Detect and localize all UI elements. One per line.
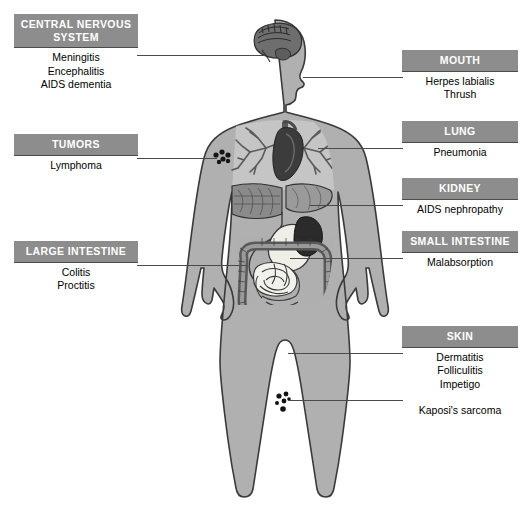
callout-lung-item-0: Pneumonia (402, 146, 518, 160)
callout-small-intestine-header: SMALL INTESTINE (402, 231, 518, 252)
callout-lung-header: LUNG (402, 121, 518, 142)
callout-tumors: TUMORS Lymphoma (14, 134, 138, 172)
callout-large-intestine-header: LARGE INTESTINE (14, 241, 138, 262)
callout-kidney-header: KIDNEY (402, 178, 518, 199)
callout-tumors-item-0: Lymphoma (14, 159, 138, 173)
leader-line-mouth (303, 77, 403, 78)
callout-skin: SKIN Dermatitis Folliculitis Impetigo (402, 326, 518, 391)
callout-mouth-item-1: Thrush (402, 88, 518, 102)
callout-cns: CENTRAL NERVOUS SYSTEM Meningitis Enceph… (14, 14, 138, 92)
callout-kidney: KIDNEY AIDS nephropathy (402, 178, 518, 216)
callout-cns-header: CENTRAL NERVOUS SYSTEM (14, 14, 138, 47)
leader-line-kaposi (288, 400, 403, 401)
callout-mouth-item-0: Herpes labialis (402, 75, 518, 89)
callout-skin-item-0: Dermatitis (402, 351, 518, 365)
callout-cns-item-2: AIDS dementia (14, 78, 138, 92)
leader-line-cns (137, 55, 265, 56)
callout-small-intestine: SMALL INTESTINE Malabsorption (402, 231, 518, 269)
leader-line-skin (288, 353, 403, 354)
callout-mouth: MOUTH Herpes labialis Thrush (402, 50, 518, 102)
callout-large-intestine-items: Colitis Proctitis (14, 263, 138, 293)
callout-tumors-items: Lymphoma (14, 156, 138, 173)
callout-large-intestine-item-1: Proctitis (14, 279, 138, 293)
callout-skin-header: SKIN (402, 326, 518, 347)
callout-kidney-items: AIDS nephropathy (402, 200, 518, 217)
callout-mouth-header: MOUTH (402, 50, 518, 71)
callout-mouth-items: Herpes labialis Thrush (402, 72, 518, 102)
callout-skin-item-1: Folliculitis (402, 364, 518, 378)
callout-kaposi-item-0: Kaposi's sarcoma (402, 404, 518, 418)
callout-large-intestine: LARGE INTESTINE Colitis Proctitis (14, 241, 138, 293)
callout-small-intestine-items: Malabsorption (402, 253, 518, 270)
callout-tumors-header: TUMORS (14, 134, 138, 155)
callout-kaposi-items: Kaposi's sarcoma (402, 404, 518, 418)
callout-lung: LUNG Pneumonia (402, 121, 518, 159)
callout-cns-item-1: Encephalitis (14, 65, 138, 79)
callout-skin-items: Dermatitis Folliculitis Impetigo (402, 348, 518, 392)
callout-kidney-item-0: AIDS nephropathy (402, 203, 518, 217)
leader-line-tumors (137, 158, 217, 159)
leader-line-large-intestine (137, 265, 247, 266)
callout-large-intestine-item-0: Colitis (14, 266, 138, 280)
callout-cns-items: Meningitis Encephalitis AIDS dementia (14, 48, 138, 92)
kaposi-lesions-marker (275, 392, 291, 412)
callout-lung-items: Pneumonia (402, 143, 518, 160)
callout-small-intestine-item-0: Malabsorption (402, 256, 518, 270)
diagram-canvas: CENTRAL NERVOUS SYSTEM Meningitis Enceph… (0, 0, 530, 522)
callout-skin-item-2: Impetigo (402, 378, 518, 392)
callout-cns-item-0: Meningitis (14, 51, 138, 65)
leader-line-lung (318, 148, 403, 149)
leader-line-small-intestine (290, 258, 403, 259)
leader-line-kidney (310, 205, 403, 206)
